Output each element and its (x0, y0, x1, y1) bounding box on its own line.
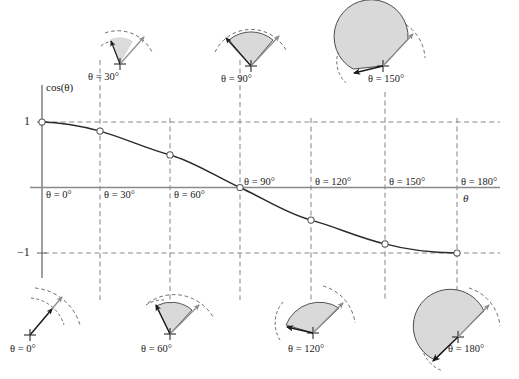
diagram-bottom-120 (275, 286, 355, 340)
y-tick-label-pos1: 1 (24, 114, 30, 129)
diagram-top-150-label: θ = 150° (368, 74, 404, 85)
arc-track-inner-0 (31, 298, 64, 325)
diagram-top-90 (215, 29, 287, 72)
angle-wedge-30 (110, 37, 133, 64)
marker-150 (382, 241, 388, 247)
x-tick-label-0: θ = 0° (46, 190, 72, 201)
x-tick-label-30: θ = 30° (104, 190, 135, 201)
diagram-top-30 (101, 31, 152, 70)
arc-track-outer-0 (35, 288, 80, 325)
marker-30 (97, 128, 103, 134)
cosine-figure-svg (0, 0, 519, 379)
x-tick-label-150: θ = 150° (389, 177, 425, 188)
diagram-bottom-0 (24, 288, 80, 341)
x-tick-label-60: θ = 60° (174, 190, 205, 201)
marker-0 (39, 119, 45, 125)
y-axis-label: cos(θ) (46, 81, 73, 93)
diagram-bottom-180 (413, 288, 500, 371)
diagram-bottom-0-label: θ = 0° (10, 344, 36, 355)
figure-canvas: cos(θ) θ 1 −1 θ = 0° θ = 30° θ = 60° θ =… (0, 0, 519, 379)
diagram-bottom-60-label: θ = 60° (141, 344, 172, 355)
x-axis-label: θ (463, 192, 468, 204)
diagram-top-90-label: θ = 90° (221, 74, 252, 85)
diagram-bottom-180-label: θ = 180° (448, 344, 484, 355)
diagram-bottom-120-label: θ = 120° (288, 344, 324, 355)
marker-180 (454, 250, 460, 256)
y-tick-label-neg1: −1 (17, 245, 30, 260)
marker-120 (308, 217, 314, 223)
marker-60 (167, 152, 173, 158)
x-tick-label-90: θ = 90° (244, 177, 275, 188)
diagram-top-150 (334, 0, 425, 83)
arc-track-inner-120 (275, 302, 283, 340)
diagram-top-30-label: θ = 30° (88, 72, 119, 83)
diagram-bottom-60 (146, 295, 213, 340)
angle-wedge-150 (334, 0, 408, 69)
ray-black-0 (30, 309, 52, 335)
marker-90 (237, 184, 243, 190)
x-tick-label-180: θ = 180° (461, 177, 497, 188)
x-tick-label-120: θ = 120° (315, 177, 351, 188)
